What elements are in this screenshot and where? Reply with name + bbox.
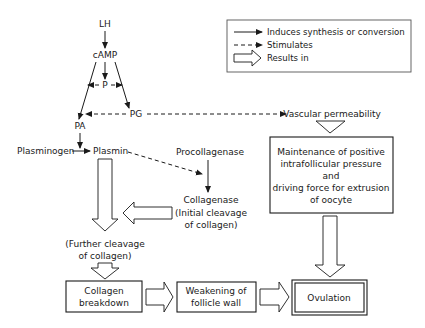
hollow-arrow-vascular-to-maintenance bbox=[316, 121, 345, 133]
node-plasminogen: Plasminogen bbox=[17, 146, 75, 156]
ovulation-pathway-diagram: Induces synthesis or conversion Stimulat… bbox=[0, 0, 425, 328]
node-vascular-permeability: Vascular permeability bbox=[283, 109, 381, 119]
node-further-cleavage-line1: (Further cleavage bbox=[65, 239, 145, 249]
node-initial-cleavage-line1: (Initial cleavage bbox=[175, 208, 247, 218]
weakening-line2: follicle wall bbox=[191, 298, 241, 308]
node-camp: cAMP bbox=[93, 50, 118, 60]
maintenance-line3: and bbox=[323, 171, 340, 181]
node-procollagenase: Procollagenase bbox=[176, 147, 244, 157]
node-plasmin: Plasmin bbox=[93, 146, 128, 156]
arrow-camp-to-pa bbox=[79, 62, 96, 119]
weakening-line1: Weakening of bbox=[185, 286, 247, 296]
node-initial-cleavage-line2: of collagen) bbox=[185, 220, 238, 230]
maintenance-line2: intrafollicular pressure bbox=[280, 159, 382, 169]
node-p: P bbox=[102, 80, 108, 90]
node-pa: PA bbox=[74, 121, 86, 131]
legend-label-results-in: Results in bbox=[267, 53, 309, 63]
ovulation-box: Ovulation bbox=[292, 280, 367, 315]
node-collagenase: Collagenase bbox=[183, 195, 238, 205]
ovulation-label: Ovulation bbox=[307, 293, 350, 303]
hollow-arrow-collagenase-to-left bbox=[123, 202, 172, 224]
maintenance-line4: driving force for extrusion bbox=[273, 183, 390, 193]
hollow-arrow-plasmin-to-further-cleavage bbox=[92, 159, 118, 231]
hollow-arrow-breakdown-to-weakening bbox=[146, 282, 173, 312]
node-pg: PG bbox=[130, 109, 142, 119]
hollow-arrow-maintenance-to-ovulation bbox=[315, 216, 345, 277]
node-lh: LH bbox=[99, 19, 111, 29]
hollow-arrow-weakening-to-ovulation bbox=[260, 282, 289, 312]
legend-label-induces: Induces synthesis or conversion bbox=[267, 27, 405, 37]
maintenance-line5: of oocyte bbox=[310, 195, 352, 205]
weakening-box: Weakening of follicle wall bbox=[177, 282, 256, 312]
maintenance-line1: Maintenance of positive bbox=[277, 147, 385, 157]
hollow-arrow-to-collagen-breakdown bbox=[91, 263, 119, 279]
collagen-breakdown-line2: breakdown bbox=[79, 298, 129, 308]
node-further-cleavage-line2: of collagen) bbox=[79, 251, 132, 261]
legend-label-stimulates: Stimulates bbox=[267, 40, 313, 50]
collagen-breakdown-line1: Collagen bbox=[84, 286, 123, 296]
maintenance-box: Maintenance of positive intrafollicular … bbox=[270, 137, 393, 213]
legend: Induces synthesis or conversion Stimulat… bbox=[227, 20, 411, 72]
collagen-breakdown-box: Collagen breakdown bbox=[66, 281, 142, 312]
